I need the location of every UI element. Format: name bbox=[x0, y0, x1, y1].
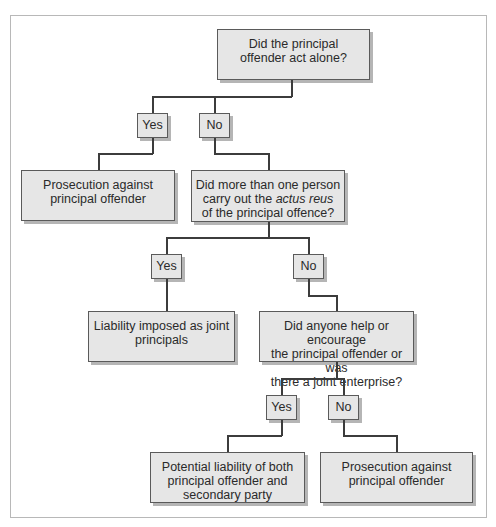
question-help-encourage: Did anyone help or encourage the princip… bbox=[259, 311, 414, 362]
box-line: Liability imposed as joint bbox=[89, 319, 234, 333]
connector-line bbox=[98, 153, 153, 155]
question-multiple-actus-reus: Did more than one person carry out the a… bbox=[191, 170, 345, 222]
outcome-secondary-party-liability: Potential liability of both principal of… bbox=[150, 452, 305, 503]
connector-line bbox=[343, 378, 345, 395]
connector-line bbox=[166, 237, 309, 239]
box-line: principal offender bbox=[22, 192, 174, 206]
connector-line bbox=[268, 153, 270, 170]
outcome-joint-principals: Liability imposed as joint principals bbox=[88, 311, 235, 362]
box-line: Potential liability of both bbox=[151, 460, 304, 474]
box-line: principals bbox=[89, 333, 234, 347]
outcome-prosecution-principal-1: Prosecution against principal offender bbox=[21, 170, 175, 221]
connector-line bbox=[268, 222, 270, 237]
connector-line bbox=[281, 378, 344, 380]
diagram-frame bbox=[10, 15, 487, 518]
connector-line bbox=[227, 435, 282, 437]
box-line: Did the principal bbox=[218, 37, 369, 51]
yes-label-3: Yes bbox=[266, 395, 297, 420]
connector-line bbox=[336, 295, 338, 311]
connector-line bbox=[214, 153, 269, 155]
box-line: Did anyone help or encourage bbox=[260, 319, 413, 347]
connector-line bbox=[227, 435, 229, 452]
connector-line bbox=[291, 80, 293, 97]
box-line: secondary party bbox=[151, 488, 304, 502]
connector-line bbox=[166, 279, 168, 311]
connector-line bbox=[152, 96, 154, 113]
box-line: carry out the actus reus bbox=[192, 192, 344, 206]
box-line: offender act alone? bbox=[218, 51, 369, 65]
connector-line bbox=[343, 420, 345, 436]
yes-label-1: Yes bbox=[137, 113, 168, 138]
connector-line bbox=[281, 420, 283, 436]
connector-line bbox=[214, 96, 216, 113]
connector-line bbox=[308, 279, 310, 295]
box-line: of the principal offence? bbox=[192, 206, 344, 220]
connector-line bbox=[152, 96, 292, 98]
box-line: Did more than one person bbox=[192, 178, 344, 192]
no-label-1: No bbox=[199, 113, 230, 138]
box-line: Prosecution against bbox=[321, 460, 472, 474]
connector-line bbox=[214, 138, 216, 154]
connector-line bbox=[152, 138, 154, 154]
yes-label-2: Yes bbox=[151, 254, 182, 279]
connector-line bbox=[166, 237, 168, 254]
connector-line bbox=[308, 237, 310, 254]
connector-line bbox=[281, 378, 283, 395]
connector-line bbox=[336, 362, 338, 378]
actus-reus-italic: actus reus bbox=[276, 192, 334, 206]
question-acted-alone: Did the principal offender act alone? bbox=[217, 29, 370, 80]
box-line: Prosecution against bbox=[22, 178, 174, 192]
box-line: principal offender and bbox=[151, 474, 304, 488]
box-text: carry out the bbox=[203, 192, 276, 206]
outcome-prosecution-principal-2: Prosecution against principal offender bbox=[320, 452, 473, 503]
no-label-2: No bbox=[293, 254, 324, 279]
box-line: principal offender bbox=[321, 474, 472, 488]
no-label-3: No bbox=[328, 395, 359, 420]
connector-line bbox=[98, 153, 100, 170]
connector-line bbox=[396, 435, 398, 452]
connector-line bbox=[308, 295, 337, 297]
connector-line bbox=[343, 435, 397, 437]
